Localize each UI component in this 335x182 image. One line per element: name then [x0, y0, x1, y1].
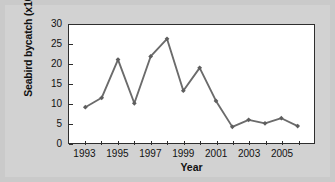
y-tick-label: 25 — [36, 39, 62, 49]
y-tick-label: 30 — [36, 19, 62, 29]
chart-figure: Seabird bycatch (x1000) 051015202530 199… — [0, 0, 335, 182]
x-axis-title: Year — [68, 161, 315, 173]
figure-canvas: Seabird bycatch (x1000) 051015202530 199… — [5, 5, 330, 177]
data-point-marker — [263, 121, 268, 126]
y-tick-label: 0 — [36, 139, 62, 149]
y-tick-label: 15 — [36, 79, 62, 89]
y-tick-label: 10 — [36, 99, 62, 109]
y-tick-mark — [69, 144, 73, 145]
series-polyline — [85, 39, 297, 127]
x-tick-label: 2005 — [262, 148, 302, 159]
data-point-marker — [132, 101, 137, 106]
plot-frame — [68, 24, 315, 144]
y-tick-label: 20 — [36, 59, 62, 69]
data-series-line — [69, 25, 314, 143]
y-axis-title: Seabird bycatch (x1000) — [22, 0, 34, 103]
y-tick-label: 5 — [36, 119, 62, 129]
